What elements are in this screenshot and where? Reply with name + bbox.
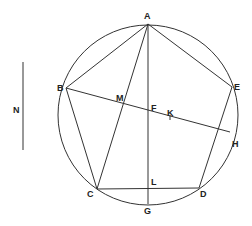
label-F: F	[151, 104, 157, 113]
label-N: N	[13, 106, 20, 115]
geometry-diagram: A B E C D G F M K H L N	[0, 0, 252, 226]
label-K: K	[167, 109, 174, 118]
diagonal-AC	[97, 24, 148, 189]
label-A: A	[144, 12, 151, 21]
label-B: B	[57, 84, 64, 93]
label-M: M	[116, 94, 124, 103]
label-G: G	[144, 207, 151, 216]
label-C: C	[87, 190, 94, 199]
pentagon-ABCDE	[66, 24, 232, 189]
label-H: H	[232, 140, 239, 149]
label-D: D	[200, 190, 207, 199]
label-L: L	[151, 178, 157, 187]
diagram-canvas	[0, 0, 252, 226]
label-E: E	[234, 83, 240, 92]
